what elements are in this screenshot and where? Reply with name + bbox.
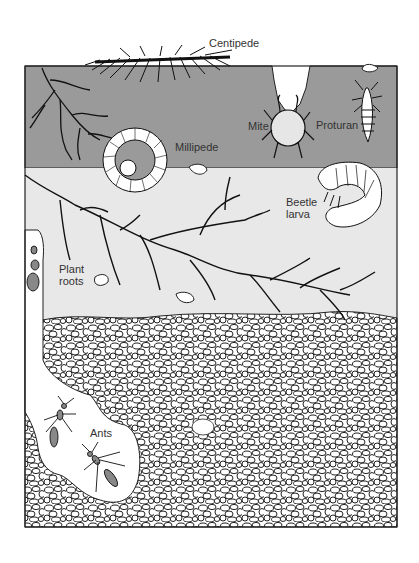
- proturan-label: Proturan: [316, 119, 358, 131]
- millipede-icon: [103, 128, 167, 192]
- mite-label: Mite: [248, 120, 269, 132]
- plant-roots-label: Plant roots: [59, 263, 84, 287]
- ants-label: Ants: [90, 427, 112, 439]
- subsoil-layer: [25, 168, 397, 320]
- millipede-label: Millipede: [175, 141, 218, 153]
- beetle-larva-label: Beetle larva: [286, 196, 317, 220]
- centipede-label: Centipede: [209, 37, 259, 49]
